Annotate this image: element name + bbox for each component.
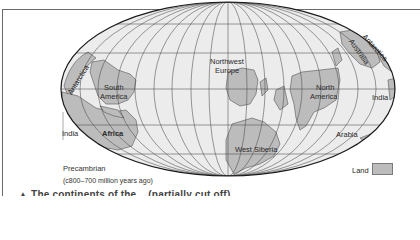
era-title: Precambrian	[63, 164, 106, 173]
label-india-west: India	[62, 130, 78, 138]
label-north-america-line1: North	[316, 84, 334, 92]
label-northwest-europe-line1: Northwest	[210, 58, 244, 66]
label-northwest-europe-line2: Europe	[215, 67, 239, 75]
label-south-america-line2: America	[100, 93, 128, 101]
label-west-siberia: West Siberia	[235, 146, 277, 154]
era-date-range: (c800–700 million years ago)	[63, 177, 153, 184]
label-arabia: Arabia	[336, 131, 358, 139]
caption-partial: ▲ The continents of the... (partially cu…	[18, 189, 230, 196]
label-south-america-line1: South	[104, 84, 124, 92]
label-africa: Africa	[102, 130, 123, 138]
legend-land-swatch	[372, 163, 393, 175]
legend-land-label: Land	[352, 166, 369, 175]
label-india-east: India	[372, 94, 388, 102]
label-north-america-line2: America	[310, 93, 338, 101]
